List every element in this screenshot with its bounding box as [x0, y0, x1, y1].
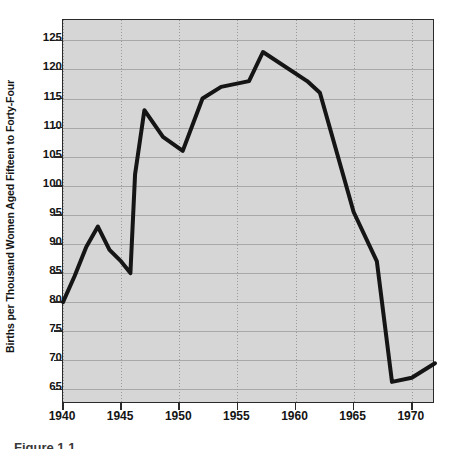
chart-figure: Births per Thousand Women Aged Fifteen t… — [0, 0, 455, 449]
y-axis-tick — [54, 127, 63, 129]
x-axis-tick-labels: 1940194519501955196019651970 — [62, 409, 434, 431]
y-axis-title: Births per Thousand Women Aged Fifteen t… — [0, 0, 20, 449]
data-line-general-fertility-rate — [63, 52, 435, 382]
y-axis-tick — [54, 40, 63, 42]
y-axis-tick-label: 95 — [22, 206, 62, 218]
y-axis-tick — [54, 98, 63, 100]
y-axis-tick-label: 80 — [22, 293, 62, 305]
y-axis-tick — [54, 272, 63, 274]
y-axis-tick — [54, 360, 63, 362]
y-axis-tick — [54, 69, 63, 71]
x-axis-tick-label: 1965 — [326, 409, 380, 423]
y-axis-tick-label: 100 — [22, 177, 62, 189]
y-axis-tick-label: 105 — [22, 148, 62, 160]
y-axis-tick — [54, 330, 63, 332]
x-axis-tick-label: 1970 — [384, 409, 438, 423]
figure-caption: Figure 1.1 — [14, 440, 75, 449]
x-axis-tick-label: 1945 — [93, 409, 147, 423]
x-axis-tick-label: 1960 — [268, 409, 322, 423]
y-axis-tick — [54, 243, 63, 245]
x-axis-tick-label: 1950 — [151, 409, 205, 423]
y-axis-tick — [54, 389, 63, 391]
y-axis-tick-label: 90 — [22, 235, 62, 247]
series-line-layer — [63, 20, 435, 404]
x-axis-tick-label: 1940 — [35, 409, 89, 423]
y-axis-tick — [54, 156, 63, 158]
y-axis-tick-label: 85 — [22, 264, 62, 276]
y-axis-tick — [54, 214, 63, 216]
y-axis-tick-label: 115 — [22, 90, 62, 102]
y-axis-tick-label: 75 — [22, 322, 62, 334]
y-axis-tick-label: 125 — [22, 31, 62, 43]
y-axis-tick-label: 120 — [22, 60, 62, 72]
y-axis-tick — [54, 185, 63, 187]
x-axis-tick-label: 1955 — [209, 409, 263, 423]
y-axis-tick-label: 110 — [22, 119, 62, 131]
y-axis-tick-label: 70 — [22, 351, 62, 363]
plot-area — [62, 19, 434, 403]
y-axis-tick-label: 65 — [22, 380, 62, 392]
